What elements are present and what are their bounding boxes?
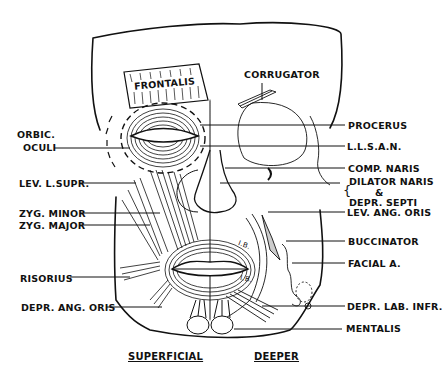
llsan-label: L.L.S.A.N. [347,141,401,152]
lev-ang-oris-label: LEV. ANG. ORIS [347,207,431,218]
deeper-caption: DEEPER [254,351,299,362]
zyg-minor-label: ZYG. MINOR [19,208,86,219]
facial-a-label: FACIAL A. [348,258,401,269]
dilator-naris-label: DILATOR NARIS [349,176,434,187]
superficial-caption: SUPERFICIAL [128,351,203,362]
mentalis-label: MENTALIS [346,323,401,334]
orbic-oculi-label-line2: OCULI [23,142,56,153]
zyg-major-label: ZYG. MAJOR [19,220,85,231]
depr-ang-oris-label: DEPR. ANG. ORIS [21,302,116,313]
comp-naris-label: COMP. NARIS [348,163,420,174]
ib-lower-label: I.B. [239,273,253,286]
risorius-label: RISORIUS [20,273,73,284]
depr-lab-infr-label: DEPR. LAB. INFR. [347,301,443,312]
orbic-oculi-label-line1: ORBIC. [17,129,55,140]
corrugator-label: CORRUGATOR [244,69,320,80]
procerus-label: PROCERUS [348,120,407,131]
buccinator-label: BUCCINATOR [348,236,419,247]
lev-l-supr-label: LEV. L.SUPR. [19,178,89,189]
